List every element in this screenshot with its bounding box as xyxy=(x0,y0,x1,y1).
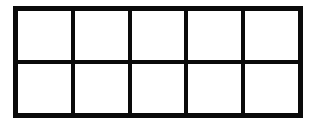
grid-cell-r1-c2 xyxy=(75,11,128,60)
grid-cell-r1-c1 xyxy=(18,11,71,60)
grid-diagram xyxy=(13,6,303,118)
grid-cell-r2-c3 xyxy=(132,64,185,113)
grid-cell-r1-c3 xyxy=(132,11,185,60)
grid-cell-r1-c4 xyxy=(188,11,241,60)
grid-cell-r2-c1 xyxy=(18,64,71,113)
grid-cell-r2-c4 xyxy=(188,64,241,113)
grid-cell-r2-c5 xyxy=(245,64,298,113)
grid-cell-r1-c5 xyxy=(245,11,298,60)
grid-cell-r2-c2 xyxy=(75,64,128,113)
